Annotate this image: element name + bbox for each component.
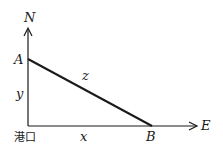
- diagram-canvas: N E A B y x z 港口: [0, 0, 223, 151]
- origin-label: 港口: [14, 131, 36, 144]
- x-label: x: [80, 129, 88, 144]
- y-label: y: [15, 86, 24, 101]
- north-label: N: [23, 10, 36, 25]
- point-b-label: B: [145, 129, 156, 144]
- z-label: z: [81, 68, 89, 83]
- point-a-label: A: [13, 52, 23, 67]
- east-label: E: [200, 118, 211, 133]
- segment-ab: [28, 59, 152, 126]
